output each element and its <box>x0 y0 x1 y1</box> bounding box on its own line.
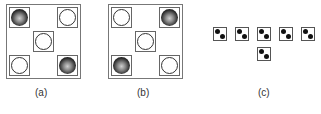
figure-a-label: (a) <box>35 87 47 98</box>
cell-center <box>33 31 54 52</box>
dot-icon <box>303 29 308 34</box>
black-ball-icon <box>113 57 130 74</box>
dot-icon <box>264 34 269 39</box>
cell-center <box>135 31 156 52</box>
white-ball-icon <box>59 9 76 26</box>
cell-top-left <box>111 7 132 28</box>
dot-icon <box>308 34 313 39</box>
figure-b-board <box>108 4 183 79</box>
dot-icon <box>264 54 269 59</box>
cell-top-right <box>57 7 78 28</box>
dice-tile <box>257 27 271 41</box>
figure-a-board <box>6 4 81 79</box>
black-ball-icon <box>11 9 28 26</box>
dot-icon <box>242 34 247 39</box>
dice-tile <box>279 27 293 41</box>
dice-tile <box>301 27 315 41</box>
dot-icon <box>281 29 286 34</box>
dot-icon <box>220 34 225 39</box>
dot-icon <box>215 29 220 34</box>
dice-tile <box>213 27 227 41</box>
black-ball-icon <box>59 57 76 74</box>
cell-bottom-right <box>159 55 180 76</box>
cell-bottom-left <box>111 55 132 76</box>
cell-top-left <box>9 7 30 28</box>
white-ball-icon <box>11 57 28 74</box>
dice-tile <box>257 47 271 61</box>
white-ball-icon <box>113 9 130 26</box>
dot-icon <box>286 34 291 39</box>
dot-icon <box>259 49 264 54</box>
figure-c-label: (c) <box>258 87 270 98</box>
dot-icon <box>259 29 264 34</box>
cell-bottom-left <box>9 55 30 76</box>
black-ball-icon <box>161 9 178 26</box>
white-ball-icon <box>35 33 52 50</box>
dice-tile <box>235 27 249 41</box>
dot-icon <box>237 29 242 34</box>
cell-top-right <box>159 7 180 28</box>
white-ball-icon <box>137 33 154 50</box>
white-ball-icon <box>161 57 178 74</box>
cell-bottom-right <box>57 55 78 76</box>
figure-b-label: (b) <box>137 87 149 98</box>
